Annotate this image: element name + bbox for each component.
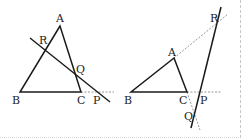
right-triangle-abc bbox=[131, 58, 187, 92]
left-figure: A B C P Q R bbox=[12, 12, 114, 107]
left-label-c: C bbox=[77, 94, 85, 107]
left-label-b: B bbox=[12, 94, 20, 107]
left-label-a: A bbox=[55, 12, 65, 25]
right-transversal-line bbox=[191, 7, 221, 128]
diagram-canvas: A B C P Q R A B C P Q R bbox=[0, 0, 248, 140]
left-label-p: P bbox=[93, 94, 101, 107]
left-triangle-abc bbox=[20, 26, 81, 92]
right-label-b: B bbox=[124, 94, 132, 107]
left-label-r: R bbox=[39, 34, 48, 47]
right-label-a: A bbox=[167, 46, 177, 59]
left-label-q: Q bbox=[76, 63, 85, 76]
right-label-q: Q bbox=[184, 110, 193, 123]
right-label-r: R bbox=[210, 12, 219, 25]
right-label-c: C bbox=[179, 94, 187, 107]
right-figure: A B C P Q R bbox=[124, 7, 228, 130]
right-label-p: P bbox=[200, 94, 208, 107]
right-ba-extension-dashed bbox=[174, 14, 228, 58]
